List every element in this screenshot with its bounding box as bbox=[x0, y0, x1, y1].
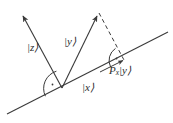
projection-operator-symbol: P bbox=[109, 64, 116, 76]
right-angle-dot-projection bbox=[116, 58, 118, 60]
label-projection-px-y: Px|y⟩ bbox=[109, 65, 131, 77]
figure-canvas bbox=[0, 0, 173, 123]
vector-projection-figure: |z⟩ |y⟩ |x⟩ Px|y⟩ bbox=[0, 0, 173, 123]
label-ket-x: |x⟩ bbox=[82, 82, 94, 93]
label-ket-y: |y⟩ bbox=[64, 36, 76, 47]
label-ket-z: |z⟩ bbox=[27, 42, 38, 53]
right-angle-dot-origin bbox=[52, 84, 54, 86]
projection-operand-ket: |y⟩ bbox=[119, 64, 131, 76]
